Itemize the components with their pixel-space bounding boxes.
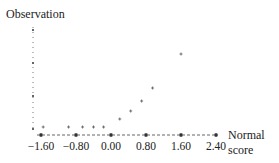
y-axis-marks (32, 29, 34, 130)
data-point (67, 126, 70, 129)
scatter-plot (0, 0, 279, 163)
x-tick-mark (180, 134, 183, 137)
data-points (42, 53, 183, 129)
data-point (92, 126, 95, 129)
x-tick-mark (110, 134, 113, 137)
data-point (140, 100, 143, 103)
data-point (81, 126, 84, 129)
x-tick-mark (75, 134, 78, 137)
x-tick-mark (215, 134, 218, 137)
data-point (180, 53, 183, 56)
x-tick-mark (40, 134, 43, 137)
data-point (42, 126, 45, 129)
data-point (102, 126, 105, 129)
data-point (129, 110, 132, 113)
data-point (118, 118, 121, 121)
x-tick-mark (145, 134, 148, 137)
data-point (151, 87, 154, 90)
